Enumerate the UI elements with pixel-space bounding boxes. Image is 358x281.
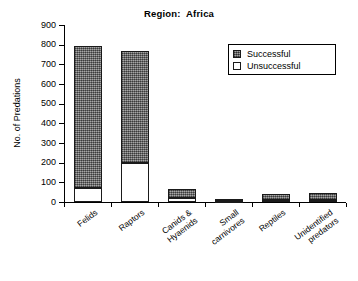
y-axis-title: No. of Predations	[12, 53, 22, 173]
bar-group	[309, 193, 337, 202]
bar-segment-unsuccessful	[309, 200, 337, 202]
y-tick-mark	[59, 123, 64, 124]
bar-segment-unsuccessful	[215, 201, 243, 203]
y-tick-label: 900	[16, 21, 56, 30]
y-tick-label: 500	[16, 99, 56, 108]
bar-segment-successful	[168, 189, 196, 198]
y-tick-mark	[59, 25, 64, 26]
y-tick-label: 400	[16, 119, 56, 128]
y-tick-label: 800	[16, 40, 56, 49]
y-tick-mark	[59, 84, 64, 85]
x-tick-mark	[299, 203, 300, 207]
y-axis-line	[64, 25, 65, 203]
y-tick-label: 300	[16, 139, 56, 148]
legend-item-unsuccessful: Unsuccessful	[233, 60, 331, 72]
legend: Successful Unsuccessful	[228, 44, 336, 75]
legend-label-successful: Successful	[247, 49, 291, 59]
x-tick-mark	[158, 203, 159, 207]
x-tick-mark	[252, 203, 253, 207]
y-tick-mark	[59, 163, 64, 164]
y-tick-mark	[59, 143, 64, 144]
x-tick-mark	[346, 203, 347, 207]
bar-segment-successful	[121, 51, 149, 163]
y-tick-label: 600	[16, 80, 56, 89]
x-tick-mark	[64, 203, 65, 207]
bar-segment-unsuccessful	[121, 163, 149, 202]
y-tick-mark	[59, 45, 64, 46]
y-tick-mark	[59, 182, 64, 183]
bar-group	[121, 51, 149, 202]
y-tick-label: 700	[16, 60, 56, 69]
y-tick-label: 100	[16, 178, 56, 187]
bar-group	[74, 46, 102, 202]
bar-segment-unsuccessful	[262, 200, 290, 202]
legend-item-successful: Successful	[233, 48, 331, 60]
bar-chart: Region: Africa No. of Predations 9008007…	[0, 0, 358, 281]
bar-segment-unsuccessful	[168, 198, 196, 202]
y-tick-label: 0	[16, 198, 56, 207]
y-tick-label: 200	[16, 158, 56, 167]
bar-segment-successful	[309, 193, 337, 200]
legend-swatch-successful-icon	[233, 50, 241, 58]
y-tick-mark	[59, 64, 64, 65]
bar-group	[262, 194, 290, 202]
bar-segment-unsuccessful	[74, 188, 102, 202]
bar-group	[168, 189, 196, 202]
bar-segment-successful	[74, 46, 102, 189]
x-tick-mark	[111, 203, 112, 207]
bar-group	[215, 199, 243, 202]
legend-label-unsuccessful: Unsuccessful	[247, 61, 301, 71]
y-tick-mark	[59, 104, 64, 105]
x-tick-mark	[205, 203, 206, 207]
legend-swatch-unsuccessful-icon	[233, 62, 241, 70]
chart-title: Region: Africa	[0, 8, 358, 19]
